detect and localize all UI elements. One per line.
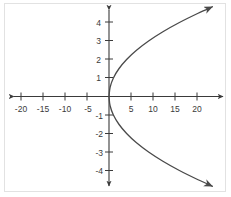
y-tick-label: -2 (95, 129, 103, 139)
x-tick-label: 20 (192, 104, 202, 114)
x-tick-label: 15 (170, 104, 180, 114)
graph-screenshot: -20 -15 -10 -5 5 10 15 20 (0, 0, 231, 197)
x-tick-label: -20 (15, 104, 28, 114)
x-axis: -20 -15 -10 -5 5 10 15 20 (14, 93, 223, 115)
y-tick-label: -4 (95, 166, 103, 176)
x-tick-label: -10 (59, 104, 72, 114)
x-tick-label: -15 (37, 104, 50, 114)
x-tick-label: -5 (84, 104, 92, 114)
y-tick-label: 3 (96, 36, 101, 46)
x-tick-label: 5 (129, 104, 134, 114)
y-tick-label: -1 (95, 111, 103, 121)
y-tick-label: 1 (96, 73, 101, 83)
x-axis-tick-labels: -20 -15 -10 -5 5 10 15 20 (15, 104, 202, 114)
y-axis: 4 3 2 1 -1 -2 -3 -4 (95, 10, 113, 186)
y-tick-label: -3 (95, 148, 103, 158)
x-tick-label: 10 (148, 104, 158, 114)
y-tick-label: 2 (96, 55, 101, 65)
y-tick-label: 4 (96, 18, 101, 28)
coordinate-plane-graph: -20 -15 -10 -5 5 10 15 20 (0, 0, 231, 197)
parabola-upper-branch (109, 7, 212, 97)
